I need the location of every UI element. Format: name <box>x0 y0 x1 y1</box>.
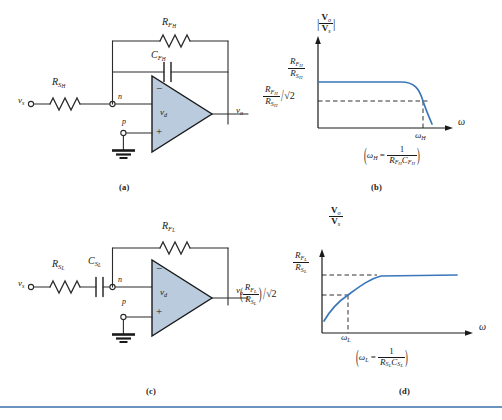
chart-d-cutoff-annotation: (ωL = 1 RSLCSL ) <box>356 347 408 369</box>
chart-b-y-axis-arrow <box>315 36 321 44</box>
opamp-minus-terminal-a: − <box>156 83 162 94</box>
label-vd-a: vd <box>160 108 167 118</box>
chart-b-cutoff-annotation: (ωH = 1 RFHCFH ) <box>364 145 420 167</box>
circuit-diagram-a <box>0 0 251 200</box>
node-p-terminal-a <box>121 130 126 135</box>
chart-d-y-axis-arrow <box>319 249 325 257</box>
label-source-vs-a: vs <box>18 96 24 106</box>
opamp-plus-terminal-a: + <box>156 126 162 137</box>
chart-d-y-axis-label: Vo Vs <box>329 206 343 228</box>
label-vd-c: vd <box>160 288 167 298</box>
source-terminal-a <box>28 101 33 106</box>
opamp-plus-terminal-c: + <box>156 306 162 317</box>
label-node-n-c: n <box>118 276 122 284</box>
figure-root: vs RSH RFH CFH n p vd − + vo (a) <box>0 0 502 420</box>
label-source-vs-c: vs <box>18 279 24 289</box>
label-output-vo-a: vo <box>236 106 243 116</box>
resistor-rfl-symbol <box>160 242 190 254</box>
label-resistor-rsl: RSL <box>52 259 64 272</box>
panel-caption-b: (b) <box>371 182 382 192</box>
opamp-minus-terminal-c: − <box>156 263 162 274</box>
label-node-n-a: n <box>118 93 122 101</box>
chart-d-xtick-omega-l: ωL <box>341 333 351 343</box>
panel-caption-d: (d) <box>399 386 410 396</box>
panel-caption-c: (c) <box>146 386 156 396</box>
circuit-diagram-c <box>0 205 251 380</box>
ground-symbol-c <box>112 335 135 343</box>
label-resistor-rfl: RFL <box>162 221 175 234</box>
chart-d-ytick-3db: ( RFL RSL )/√2 <box>240 283 277 306</box>
node-p-terminal-c <box>121 314 126 319</box>
chart-b-ytick-passband: RFH RSH <box>288 57 305 80</box>
chart-d-response-curve <box>324 275 457 321</box>
label-capacitor-cfh: CFH <box>151 50 166 63</box>
panel-caption-a: (a) <box>119 182 130 192</box>
resistor-rsh-symbol <box>50 98 80 110</box>
chart-b-x-axis-label: ω <box>458 117 465 127</box>
label-node-p-a: p <box>122 118 126 126</box>
chart-b-response-curve <box>318 82 432 124</box>
resistor-rsl-symbol <box>50 281 80 293</box>
chart-b-y-axis-label: | Vo Vs | <box>317 13 335 35</box>
ground-symbol-a <box>112 151 135 159</box>
label-resistor-rfh: RFH <box>162 17 176 30</box>
chart-d-ytick-passband: RFL RSL <box>293 251 309 274</box>
resistor-rfh-symbol <box>160 35 190 47</box>
label-node-p-c: p <box>122 298 126 306</box>
chart-b-ytick-3db: RFH RSH /√2 <box>263 85 295 108</box>
chart-b-xtick-omega-h: ωH <box>415 131 426 141</box>
chart-b-x-axis-arrow <box>445 125 453 131</box>
source-terminal-c <box>28 284 33 289</box>
chart-d-x-axis-arrow <box>465 330 473 336</box>
footer-divider <box>0 406 502 408</box>
chart-d-x-axis-label: ω <box>479 322 486 332</box>
label-resistor-rsh: RSH <box>52 77 65 90</box>
label-capacitor-csl: CSL <box>88 256 101 269</box>
